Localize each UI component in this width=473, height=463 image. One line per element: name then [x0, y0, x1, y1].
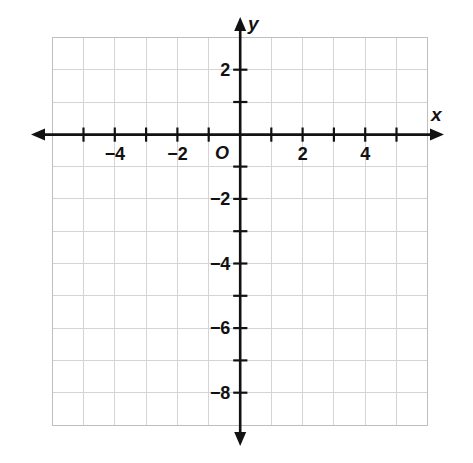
y-tick-label: −8 — [210, 384, 230, 402]
x-axis-label: x — [431, 105, 442, 124]
coordinate-grid-svg — [0, 0, 473, 463]
y-tick-label: −4 — [210, 255, 230, 273]
y-axis-label: y — [248, 14, 259, 33]
x-tick-label: −4 — [105, 145, 125, 163]
origin-label: O — [215, 144, 229, 162]
x-axis — [31, 129, 444, 141]
y-tick-label: −2 — [210, 190, 230, 208]
coordinate-plane-figure: x y O −4 −2 2 4 2 −2 −4 −6 −8 — [0, 0, 473, 463]
x-tick-label: −2 — [167, 145, 187, 163]
y-tick-label: −6 — [210, 319, 230, 337]
x-tick-label: 2 — [298, 145, 308, 163]
x-tick-label: 4 — [360, 145, 370, 163]
y-tick-label: 2 — [220, 61, 230, 79]
